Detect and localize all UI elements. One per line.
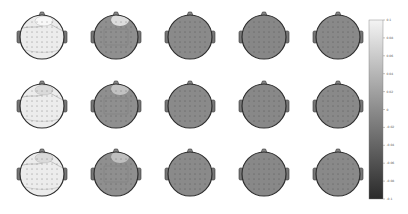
topo-panel — [17, 81, 67, 128]
colorbar-tick-label: 0.08 — [387, 36, 394, 40]
topo-panel — [165, 12, 215, 59]
topo-panel — [91, 12, 141, 59]
colorbar-tick-label: 0.04 — [387, 72, 394, 76]
topo-panel — [91, 81, 141, 128]
topo-panel — [17, 149, 67, 196]
topo-panel — [313, 149, 363, 196]
colorbar-tick-label: 0.06 — [387, 54, 394, 58]
topo-panel — [239, 81, 289, 128]
colorbar: 0.10.080.060.040.020-0.02-0.04-0.06-0.08… — [369, 18, 394, 201]
colorbar-tick-label: -0.04 — [387, 143, 395, 147]
colorbar-tick-label: 0.02 — [387, 90, 394, 94]
colorbar-tick-label: -0.08 — [387, 179, 395, 183]
topography-figure: 0.10.080.060.040.020-0.02-0.04-0.06-0.08… — [0, 0, 408, 214]
colorbar-tick-label: 0.1 — [387, 18, 392, 22]
topo-panel — [165, 149, 215, 196]
colorbar-tick-label: 0 — [387, 108, 389, 112]
topo-panels — [17, 12, 363, 196]
colorbar-tick-label: -0.1 — [387, 197, 393, 201]
colorbar-ticks: 0.10.080.060.040.020-0.02-0.04-0.06-0.08… — [383, 18, 394, 201]
topo-panel — [313, 81, 363, 128]
topo-panel — [239, 149, 289, 196]
topo-panel — [313, 12, 363, 59]
topo-panel — [165, 81, 215, 128]
topo-panel — [91, 149, 141, 196]
colorbar-tick-label: -0.02 — [387, 125, 395, 129]
colorbar-tick-label: -0.06 — [387, 161, 395, 165]
topo-panel — [17, 12, 67, 59]
topo-panel — [239, 12, 289, 59]
